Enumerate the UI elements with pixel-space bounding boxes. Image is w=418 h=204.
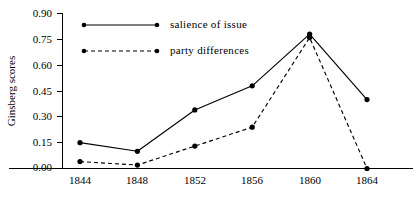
- y-tick-label: 0.00: [33, 161, 53, 173]
- legend-marker-start: [82, 49, 87, 54]
- x-tick-label: 1852: [184, 174, 206, 186]
- legend-entry-salience-of-issue[interactable]: salience of issue: [82, 18, 247, 30]
- data-point[interactable]: [250, 83, 255, 88]
- y-tick-label: 0.45: [33, 85, 53, 97]
- data-point[interactable]: [192, 107, 197, 112]
- legend-label-salience-of-issue: salience of issue: [170, 18, 247, 30]
- y-tick-label: 0.90: [33, 7, 53, 19]
- y-tick-label: 0.30: [33, 110, 53, 122]
- data-point[interactable]: [135, 162, 140, 167]
- legend-marker-end: [155, 23, 160, 28]
- data-point[interactable]: [77, 159, 82, 164]
- chart-legend: salience of issue party differences: [82, 18, 249, 56]
- x-tick-label: 1860: [299, 174, 322, 186]
- legend-marker-end: [155, 49, 160, 54]
- x-tick-label: 1856: [241, 174, 264, 186]
- y-axis-ticks: [57, 14, 63, 169]
- y-axis-tick-labels: 0.90 0.75 0.60 0.45 0.30 0.15 0.00: [33, 7, 53, 173]
- legend-entry-party-differences[interactable]: party differences: [82, 44, 249, 56]
- legend-marker-start: [82, 23, 87, 28]
- x-axis-tick-labels: 1844 1848 1852 1856 1860 1864: [69, 174, 379, 186]
- x-tick-label: 1844: [69, 174, 92, 186]
- y-tick-label: 0.15: [33, 136, 53, 148]
- chart-figure: 0.90 0.75 0.60 0.45 0.30 0.15 0.00 Ginsb…: [0, 0, 418, 204]
- legend-label-party-differences: party differences: [170, 44, 249, 56]
- data-point[interactable]: [135, 149, 140, 154]
- line-chart-canvas: 0.90 0.75 0.60 0.45 0.30 0.15 0.00 Ginsb…: [0, 0, 418, 204]
- data-point[interactable]: [250, 125, 255, 130]
- y-tick-label: 0.60: [33, 59, 53, 71]
- x-tick-label: 1848: [126, 174, 149, 186]
- data-point[interactable]: [192, 144, 197, 149]
- y-tick-label: 0.75: [33, 33, 53, 45]
- data-point[interactable]: [77, 140, 82, 145]
- x-tick-label: 1864: [356, 174, 379, 186]
- data-point[interactable]: [364, 166, 369, 171]
- data-point[interactable]: [307, 35, 312, 40]
- data-point[interactable]: [364, 97, 369, 102]
- y-axis-title: Ginsberg scores: [5, 56, 17, 126]
